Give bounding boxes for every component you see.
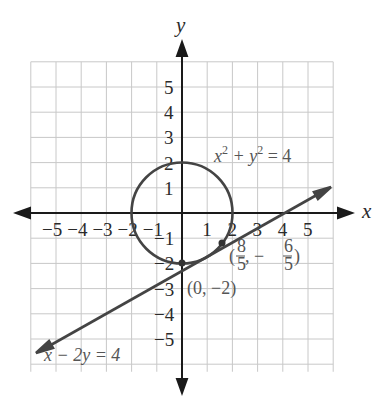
y-axis-down-arrow-icon <box>177 379 187 393</box>
x-axis-label: x <box>361 199 372 223</box>
svg-text:(: ( <box>229 246 235 267</box>
x-tick-label: 5 <box>303 219 313 240</box>
y-tick-label: −4 <box>154 304 175 325</box>
x-tick-label: −4 <box>67 219 88 240</box>
y-tick-label: 5 <box>164 77 174 98</box>
x-tick-label: −5 <box>42 219 62 240</box>
y-tick-label: 1 <box>164 178 174 199</box>
y-axis-label: y <box>174 13 186 37</box>
svg-text:, −: , − <box>245 246 264 266</box>
line-right-arrow-icon <box>314 187 331 199</box>
y-tick-label: −5 <box>154 329 174 350</box>
point1-label: ( 8 5 , − 6 5 ) <box>229 236 300 274</box>
line-equation: x − 2y = 4 <box>43 345 120 365</box>
x-tick-labels: −5−4−3−2−112345 <box>42 219 313 240</box>
x-axis-left-arrow-icon <box>16 208 30 218</box>
y-tick-label: 4 <box>164 102 174 123</box>
graph: y x −5−4−3−2−112345 54321−1−2−3−4−5 x2 +… <box>0 0 387 407</box>
point2-label: (0, −2) <box>187 278 236 299</box>
x-tick-label: −3 <box>92 219 112 240</box>
axes <box>16 42 352 393</box>
svg-text:6: 6 <box>284 236 293 256</box>
svg-text:): ) <box>294 246 300 267</box>
svg-text:5: 5 <box>284 254 293 274</box>
intersection-point-1 <box>219 240 226 247</box>
y-tick-label: −1 <box>154 228 174 249</box>
intersection-point-2 <box>179 260 186 267</box>
x-tick-label: 1 <box>202 219 212 240</box>
y-axis-up-arrow-icon <box>177 42 187 56</box>
x-axis-right-arrow-icon <box>338 208 352 218</box>
y-tick-label: 3 <box>164 127 174 148</box>
